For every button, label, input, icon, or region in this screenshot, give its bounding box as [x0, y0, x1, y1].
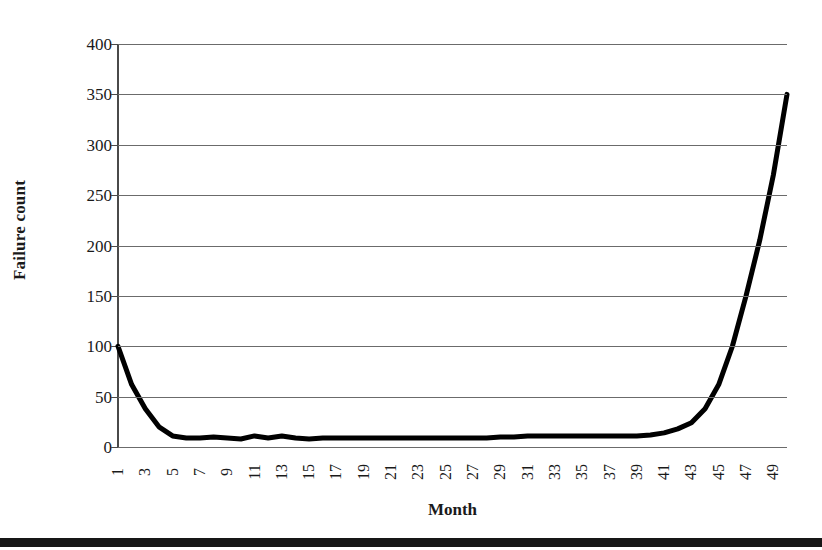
x-tick-label-text: 19 — [356, 464, 372, 480]
x-tick-label-text: 9 — [219, 468, 235, 476]
x-tick-label-text: 13 — [274, 464, 290, 480]
x-tick-label-text: 23 — [410, 464, 426, 480]
x-tick-label-5: 5 — [163, 452, 183, 496]
x-tick-label-text: 21 — [383, 464, 399, 480]
gridline-100 — [118, 346, 787, 347]
x-tick-label-text: 43 — [683, 464, 699, 480]
x-tick-label-13: 13 — [272, 452, 292, 496]
x-tick-label-47: 47 — [736, 452, 756, 496]
x-tick-label-45: 45 — [709, 452, 729, 496]
x-tick-label-11: 11 — [245, 452, 265, 496]
gridline-150 — [118, 296, 787, 297]
x-tick-label-23: 23 — [408, 452, 428, 496]
x-tick-label-33: 33 — [545, 452, 565, 496]
x-tick-label-text: 49 — [765, 464, 781, 480]
plot-area — [118, 44, 787, 447]
x-tick-label-27: 27 — [463, 452, 483, 496]
x-tick-label-3: 3 — [135, 452, 155, 496]
x-tick-label-43: 43 — [681, 452, 701, 496]
x-tick-label-text: 47 — [738, 464, 754, 480]
x-tick-label-text: 7 — [192, 468, 208, 476]
x-tick-label-41: 41 — [654, 452, 674, 496]
gridline-400 — [118, 44, 787, 45]
x-tick-label-text: 27 — [465, 464, 481, 480]
gridline-250 — [118, 195, 787, 196]
x-tick-label-text: 37 — [602, 464, 618, 480]
x-tick-label-text: 17 — [328, 464, 344, 480]
x-tick-label-text: 29 — [492, 464, 508, 480]
gridline-200 — [118, 246, 787, 247]
failure-count-chart-figure: Failure count 050100150200250300350400 1… — [0, 0, 822, 550]
page-edge-bar — [0, 538, 822, 547]
x-tick-label-text: 3 — [137, 468, 153, 476]
x-tick-label-35: 35 — [572, 452, 592, 496]
x-tick-label-text: 35 — [574, 464, 590, 480]
x-axis-title: Month — [118, 500, 787, 520]
x-tick-label-text: 33 — [547, 464, 563, 480]
x-tick-label-17: 17 — [326, 452, 346, 496]
x-tick-label-25: 25 — [436, 452, 456, 496]
gridline-50 — [118, 397, 787, 398]
gridline-0 — [118, 447, 787, 448]
x-tick-label-text: 25 — [438, 464, 454, 480]
x-tick-label-39: 39 — [627, 452, 647, 496]
x-tick-label-text: 11 — [247, 464, 263, 479]
x-tick-label-29: 29 — [490, 452, 510, 496]
x-tick-label-text: 15 — [301, 464, 317, 480]
x-tick-label-31: 31 — [518, 452, 538, 496]
x-tick-label-1: 1 — [108, 452, 128, 496]
x-tick-label-text: 45 — [711, 464, 727, 480]
x-tick-label-21: 21 — [381, 452, 401, 496]
x-tick-label-37: 37 — [600, 452, 620, 496]
x-tick-label-9: 9 — [217, 452, 237, 496]
x-axis-tick-labels: 1357911131517192123252729313335373941434… — [118, 452, 787, 498]
x-tick-label-text: 1 — [110, 468, 126, 476]
x-tick-label-text: 31 — [520, 464, 536, 480]
failure-count-polyline — [118, 94, 787, 439]
gridline-350 — [118, 94, 787, 95]
x-tick-label-text: 5 — [165, 468, 181, 476]
x-tick-label-7: 7 — [190, 452, 210, 496]
x-tick-label-19: 19 — [354, 452, 374, 496]
x-tick-label-text: 41 — [656, 464, 672, 480]
x-tick-label-49: 49 — [763, 452, 783, 496]
x-tick-label-text: 39 — [629, 464, 645, 480]
x-tick-label-15: 15 — [299, 452, 319, 496]
gridline-300 — [118, 145, 787, 146]
